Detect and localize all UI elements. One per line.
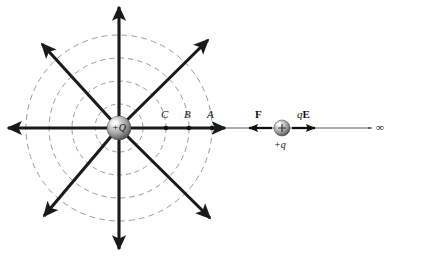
point-marker-B — [187, 126, 191, 130]
force-label-qE: qE — [297, 109, 310, 120]
force-label-F: F — [255, 109, 262, 120]
x-axis-infinity-label: ∞ — [376, 122, 384, 133]
test-charge — [274, 120, 290, 136]
point-label-C: C — [161, 109, 168, 120]
electric-field-diagram — [0, 0, 432, 257]
force-label-E-part: E — [303, 108, 310, 120]
point-label-B: B — [184, 109, 191, 120]
point-marker-C — [164, 126, 168, 130]
test-charge-highlight — [276, 122, 282, 126]
test-charge-label: +q — [274, 140, 286, 150]
source-charge-label: +Q — [112, 123, 126, 133]
point-marker-A — [210, 126, 214, 130]
point-label-A: A — [207, 109, 214, 120]
